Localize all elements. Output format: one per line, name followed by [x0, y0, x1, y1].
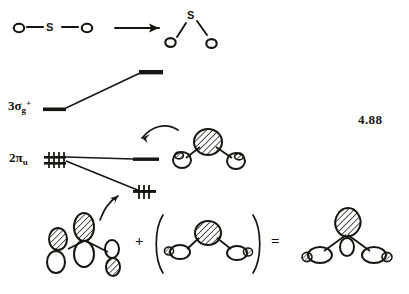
orbital-label-sigma-g-sup: + [26, 98, 31, 108]
figure-number: 4.88 [358, 112, 382, 128]
correlation-line-sigma-g [66, 74, 139, 109]
correlation-line-pi-u-down [66, 161, 140, 191]
bent-pi-orbital-sketch [52, 205, 144, 285]
resultant-orbital-sketch [296, 205, 401, 287]
level-bar-pi-u-left [44, 152, 66, 168]
bent-mo-sketch [160, 120, 250, 180]
level-bar-pi-u-right-upper [133, 158, 159, 161]
bracketed-orbital-sketch [163, 215, 255, 273]
figure-canvas: S S 4.88 [0, 0, 409, 294]
level-bar-sigma-g-right [139, 70, 163, 74]
atom-label-s-linear: S [46, 21, 54, 33]
atom-label-s-bent: S [187, 9, 195, 21]
linear-so2-group: S [0, 0, 110, 55]
orbital-label-sigma-g: 3σg+ [8, 99, 31, 115]
level-bar-sigma-g-left [43, 108, 66, 112]
top-row: S S [0, 0, 409, 60]
bent-so2-svg [155, 0, 235, 58]
bent-so2-group: S [155, 0, 235, 58]
equals-operator: = [271, 233, 280, 250]
level-bar-pi-u-right-lower [133, 185, 156, 199]
plus-operator: + [135, 233, 144, 250]
bottom-equation-row: + [0, 205, 409, 294]
right-paren [250, 213, 264, 275]
orbital-label-sigma-g-main: 3σ [8, 98, 22, 113]
correlation-line-pi-u-flat [66, 157, 133, 159]
orbital-label-pi-u: 2πu [9, 151, 28, 167]
linear-so2-svg [0, 0, 110, 55]
orbital-label-pi-u-main: 2π [9, 150, 23, 165]
orbital-label-pi-u-sub: u [23, 157, 28, 167]
